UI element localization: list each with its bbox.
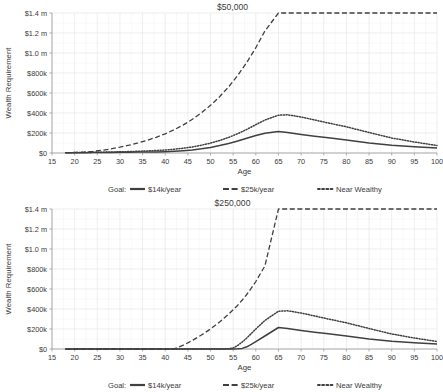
x-tick-label: 80	[342, 353, 350, 362]
y-tick-label: $1.2 m	[25, 225, 47, 234]
legend: Goal:$14k/year$25k/yearNear Wealthy	[108, 381, 382, 390]
x-tick-label: 20	[71, 353, 79, 362]
y-tick-label: $1.4 m	[25, 9, 47, 18]
y-tick-label: $1.2 m	[25, 29, 47, 38]
chart-title: $250,000	[215, 198, 251, 208]
legend-title: Goal:	[108, 185, 126, 194]
x-axis-title: Age	[238, 363, 252, 372]
x-tick-label: 80	[342, 157, 350, 166]
y-axis: $0$200k$400k$600k$800k$1.0 m$1.2 m$1.4 m	[25, 9, 52, 158]
x-tick-label: 50	[206, 157, 214, 166]
x-tick-label: 65	[274, 353, 282, 362]
chart-50000: $0$200k$400k$600k$800k$1.0 m$1.2 m$1.4 m…	[0, 0, 443, 196]
y-tick-label: $200k	[27, 325, 47, 334]
x-tick-label: 85	[365, 157, 373, 166]
x-tick-label: 100	[431, 353, 443, 362]
chart-panel-50000: $0$200k$400k$600k$800k$1.0 m$1.2 m$1.4 m…	[0, 0, 443, 196]
x-tick-label: 35	[139, 353, 147, 362]
x-tick-label: 35	[139, 157, 147, 166]
y-tick-label: $200k	[27, 129, 47, 138]
x-tick-label: 65	[274, 157, 282, 166]
x-tick-label: 75	[320, 157, 328, 166]
x-axis: 1520253035404550556065707580859095100	[48, 153, 443, 166]
x-tick-label: 40	[161, 353, 169, 362]
y-tick-label: $800k	[27, 69, 47, 78]
y-tick-label: $800k	[27, 265, 47, 274]
legend-label-nearwealthy: Near Wealthy	[336, 381, 382, 390]
y-tick-label: $1.0 m	[25, 49, 47, 58]
y-tick-label: $1.0 m	[25, 245, 47, 254]
x-tick-label: 90	[388, 353, 396, 362]
series-line--14k-year	[66, 328, 437, 350]
x-tick-label: 20	[71, 157, 79, 166]
x-tick-label: 30	[116, 353, 124, 362]
x-tick-label: 55	[229, 157, 237, 166]
y-axis-title: Wealth Requirement	[4, 47, 13, 119]
y-tick-label: $600k	[27, 89, 47, 98]
legend-label-goal14k: $14k/year	[148, 381, 182, 390]
chart-title: $50,000	[217, 2, 248, 12]
x-tick-label: 90	[388, 157, 396, 166]
chart-panel-250000: $0$200k$400k$600k$800k$1.0 m$1.2 m$1.4 m…	[0, 196, 443, 392]
y-tick-label: $400k	[27, 109, 47, 118]
x-tick-label: 40	[161, 157, 169, 166]
x-tick-label: 75	[320, 353, 328, 362]
legend-label-goal25k: $25k/year	[241, 185, 275, 194]
x-tick-label: 85	[365, 353, 373, 362]
x-tick-label: 45	[184, 353, 192, 362]
x-tick-label: 60	[252, 157, 260, 166]
y-axis: $0$200k$400k$600k$800k$1.0 m$1.2 m$1.4 m	[25, 205, 52, 354]
gridlines	[52, 209, 437, 349]
x-tick-label: 15	[48, 353, 56, 362]
gridlines	[52, 13, 437, 153]
x-tick-label: 95	[410, 353, 418, 362]
legend-title: Goal:	[108, 381, 126, 390]
legend-label-nearwealthy: Near Wealthy	[336, 185, 382, 194]
series-line-near-wealthy	[66, 311, 437, 349]
x-tick-label: 55	[229, 353, 237, 362]
series-line--14k-year	[66, 132, 437, 153]
chart-250000: $0$200k$400k$600k$800k$1.0 m$1.2 m$1.4 m…	[0, 196, 443, 392]
x-tick-label: 60	[252, 353, 260, 362]
legend: Goal:$14k/year$25k/yearNear Wealthy	[108, 185, 382, 194]
x-tick-label: 25	[93, 157, 101, 166]
x-tick-label: 100	[431, 157, 443, 166]
x-tick-label: 25	[93, 353, 101, 362]
x-tick-label: 70	[297, 157, 305, 166]
x-tick-label: 45	[184, 157, 192, 166]
y-tick-label: $0	[39, 345, 47, 354]
x-tick-label: 95	[410, 157, 418, 166]
x-tick-label: 30	[116, 157, 124, 166]
y-tick-label: $600k	[27, 285, 47, 294]
x-axis-title: Age	[238, 167, 252, 176]
y-tick-label: $1.4 m	[25, 205, 47, 214]
x-tick-label: 15	[48, 157, 56, 166]
y-tick-label: $0	[39, 149, 47, 158]
y-axis-title: Wealth Requirement	[4, 243, 13, 315]
x-tick-label: 70	[297, 353, 305, 362]
y-tick-label: $400k	[27, 305, 47, 314]
legend-label-goal14k: $14k/year	[148, 185, 182, 194]
x-axis: 1520253035404550556065707580859095100	[48, 349, 443, 362]
x-tick-label: 50	[206, 353, 214, 362]
legend-label-goal25k: $25k/year	[241, 381, 275, 390]
